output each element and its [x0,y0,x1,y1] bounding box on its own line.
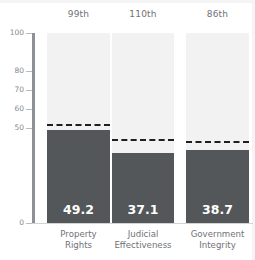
chart-screenshot: 100 80 70 60 50 0 49.2 37.1 38.7 99th 11… [0,0,255,260]
y-tick-mark-70 [26,90,32,91]
plot-area: 100 80 70 60 50 0 49.2 37.1 38.7 [0,0,255,260]
y-tick-mark-50 [26,128,32,129]
category-label-judicial-effectiveness: Judicial Effectiveness [108,229,178,250]
x-axis-baseline [32,223,253,224]
y-tick-mark-60 [26,109,32,110]
y-tick-label-80: 80 [14,67,24,75]
y-tick-label-50: 50 [14,124,24,132]
reference-line-property-rights [47,124,110,126]
y-tick-label-60: 60 [14,105,24,113]
bar-value-judicial-effectiveness: 37.1 [112,202,174,217]
rank-label-judicial-effectiveness: 110th [112,9,174,19]
bar-value-property-rights: 49.2 [47,202,110,217]
category-label-government-integrity: Government Integrity [182,229,253,250]
y-tick-label-70: 70 [14,86,24,94]
y-tick-mark-0 [26,223,32,224]
rank-label-property-rights: 99th [47,9,110,19]
reference-line-judicial-effectiveness [112,139,174,141]
y-axis-line [32,33,35,224]
y-tick-label-0: 0 [19,219,24,227]
rank-label-row: 99th 110th 86th [0,9,255,23]
y-tick-mark-80 [26,71,32,72]
y-tick-mark-100 [26,33,32,34]
category-label-property-rights: Property Rights [45,229,112,250]
reference-line-government-integrity [186,141,249,143]
y-tick-label-100: 100 [10,29,24,37]
rank-label-government-integrity: 86th [186,9,249,19]
bar-value-government-integrity: 38.7 [186,202,249,217]
